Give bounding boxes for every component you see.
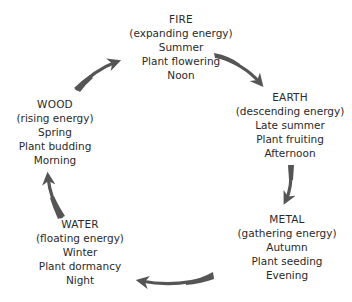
node-earth-plant-stage: Plant fruiting [236, 132, 345, 146]
node-metal-name: METAL [237, 212, 336, 226]
node-metal: METAL (gathering energy) Autumn Plant se… [237, 212, 336, 282]
node-water-season: Winter [36, 245, 124, 259]
node-metal-time-of-day: Evening [237, 268, 336, 282]
arrow-wood-to-fire [74, 62, 116, 92]
node-metal-energy: (gathering energy) [237, 226, 336, 240]
five-elements-cycle-diagram: FIRE (expanding energy) Summer Plant flo… [0, 0, 352, 302]
arrow-earth-to-metal [286, 165, 294, 200]
node-earth: EARTH (descending energy) Late summer Pl… [236, 90, 345, 160]
node-earth-energy: (descending energy) [236, 104, 345, 118]
node-metal-season: Autumn [237, 240, 336, 254]
node-fire-season: Summer [129, 40, 232, 54]
node-wood: WOOD (rising energy) Spring Plant buddin… [16, 97, 93, 167]
node-water: WATER (floating energy) Winter Plant dor… [36, 217, 124, 287]
node-wood-season: Spring [16, 125, 93, 139]
node-water-plant-stage: Plant dormancy [36, 259, 124, 273]
node-fire-energy: (expanding energy) [129, 26, 232, 40]
node-fire: FIRE (expanding energy) Summer Plant flo… [129, 12, 232, 82]
node-wood-plant-stage: Plant budding [16, 139, 93, 153]
node-earth-season: Late summer [236, 118, 345, 132]
node-fire-plant-stage: Plant flowering [129, 54, 232, 68]
node-fire-name: FIRE [129, 12, 232, 26]
arrow-metal-to-water [141, 272, 214, 285]
node-wood-energy: (rising energy) [16, 111, 93, 125]
node-metal-plant-stage: Plant seeding [237, 254, 336, 268]
node-earth-time-of-day: Afternoon [236, 146, 345, 160]
node-water-energy: (floating energy) [36, 231, 124, 245]
node-water-time-of-day: Night [36, 273, 124, 287]
node-earth-name: EARTH [236, 90, 345, 104]
node-wood-time-of-day: Morning [16, 153, 93, 167]
arrow-water-to-wood [48, 177, 65, 219]
node-fire-time-of-day: Noon [129, 68, 232, 82]
node-wood-name: WOOD [16, 97, 93, 111]
node-water-name: WATER [36, 217, 124, 231]
